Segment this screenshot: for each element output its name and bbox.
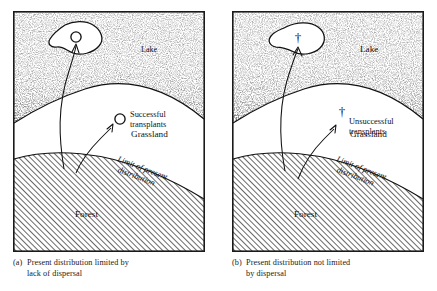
panel-b-transplant-label-line1: Unsuccessful [349,117,394,126]
panel-a-caption-tag: (a) [13,258,22,269]
panel-b-island-transplant-marker: † [295,30,302,45]
panel-a-forest-label: Forest [75,209,98,219]
panel-a-caption-line1: Present distribution limited by [27,258,129,269]
panel-b-transplant-label-line2: transplants [349,127,385,136]
panel-a-grassland-transplant-marker [115,114,125,124]
panel-b: † Lake Grassland Forest Limit of present… [232,11,424,252]
panel-a-transplant-label-line2: transplants [130,120,166,129]
figure-two-panel-transplant-diagram: Lake Grassland Forest Limit of present d… [0,0,437,291]
panel-a: Lake Grassland Forest Limit of present d… [13,11,205,252]
panel-b-caption-line2: by dispersal [246,269,350,280]
panel-a-caption-line2: lack of dispersal [27,269,129,280]
panel-b-caption-line1: Present distribution not limited [246,258,350,269]
panel-b-forest-label: Forest [294,209,317,219]
panel-a-caption: (a) Present distribution limited by lack… [13,258,129,279]
panel-b-caption: (b) Present distribution not limited by … [232,258,350,279]
panel-a-grassland-label: Grassland [131,129,168,139]
panel-a-island-transplant-marker [71,32,81,42]
panel-a-lake-label: Lake [141,45,157,54]
panel-b-caption-tag: (b) [232,258,242,269]
panel-b-lake-label: Lake [360,44,378,54]
panel-a-transplant-label-line1: Successful [130,110,166,119]
panel-b-grassland-transplant-marker: † [339,104,346,119]
